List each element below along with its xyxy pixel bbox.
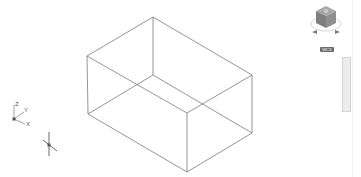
- navigation-bar[interactable]: [342, 57, 351, 112]
- viewcube-rotate-left-icon[interactable]: [312, 30, 317, 34]
- navigation-bar-track: [352, 0, 353, 177]
- ucs-z-label: Z: [15, 101, 19, 107]
- crosshair-cursor-icon: [43, 132, 57, 156]
- wireframe-box[interactable]: [87, 17, 252, 172]
- viewcube-top-marker-icon: [324, 9, 328, 13]
- wcs-menu-button[interactable]: WCS: [320, 47, 334, 52]
- viewcube-rotate-right-icon[interactable]: [335, 30, 340, 34]
- model-space-canvas[interactable]: [0, 0, 361, 177]
- ucs-y-label: Y: [24, 107, 28, 113]
- drawing-viewport[interactable]: Z Y X WCS: [0, 0, 361, 177]
- viewcube[interactable]: [308, 2, 344, 44]
- ucs-x-label: X: [26, 121, 30, 127]
